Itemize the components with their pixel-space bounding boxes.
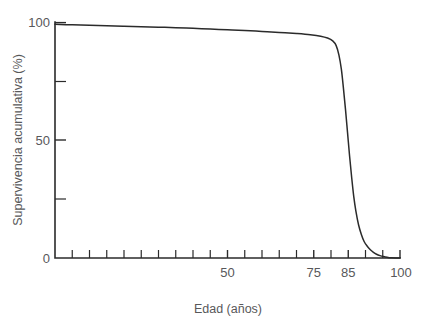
x-tick-label-100: 100 (390, 265, 412, 280)
survival-curve-line (55, 24, 400, 258)
x-axis-tick-labels: 50 75 85 100 (220, 265, 412, 280)
y-tick-label-50: 50 (36, 133, 50, 148)
x-tick-label-50: 50 (220, 265, 234, 280)
x-tick-label-85: 85 (341, 265, 355, 280)
y-axis-ticks (55, 23, 66, 199)
y-tick-label-100: 100 (28, 15, 50, 30)
y-tick-label-0: 0 (43, 251, 50, 266)
x-axis-ticks (72, 250, 400, 258)
y-axis-tick-labels: 100 50 0 (28, 15, 50, 266)
chart-figure: 100 50 0 5 (0, 0, 430, 334)
x-axis-title: Edad (años) (194, 302, 262, 316)
x-tick-label-75: 75 (307, 265, 321, 280)
survival-curve-chart: 100 50 0 5 (0, 0, 430, 334)
y-axis-title: Supervivencia acumulativa (%) (11, 54, 25, 226)
